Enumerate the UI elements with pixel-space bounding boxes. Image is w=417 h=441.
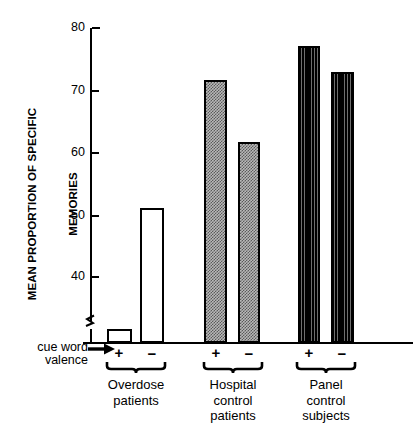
y-tick-70 <box>92 90 99 92</box>
bar-panel-control-positive <box>298 46 320 343</box>
bar-overdose-negative <box>140 208 164 343</box>
bar-hospital-control-negative <box>238 142 261 343</box>
bar-hospital-control-positive <box>204 80 227 343</box>
group-label-overdose-line-2: patients <box>81 393 191 409</box>
valence-sign-overdose-negative: − <box>141 347 163 361</box>
y-tick-label-80: 80 <box>55 21 85 34</box>
bar-chart-figure: MEAN PROPORTION OF SPECIFIC MEMORIES 80 … <box>0 0 417 441</box>
group-label-panel-line-1: Panel <box>271 377 381 393</box>
y-tick-50 <box>92 215 99 217</box>
cue-word-valence-line-2: valence <box>14 354 88 367</box>
y-tick-60 <box>92 152 99 154</box>
y-tick-label-70: 70 <box>55 84 85 97</box>
valence-sign-panel-positive: + <box>298 346 320 360</box>
y-axis-label-line-2: MEMORIES <box>67 59 81 349</box>
group-label-panel-line-3: subjects <box>271 408 381 424</box>
bar-panel-control-negative <box>331 72 354 343</box>
group-label-overdose-line-1: Overdose <box>81 377 191 393</box>
cue-word-valence-label: cue word valence <box>14 341 88 366</box>
y-tick-40 <box>92 276 99 278</box>
valence-sign-hospital-positive: + <box>205 346 227 360</box>
y-tick-label-60: 60 <box>55 146 85 159</box>
y-tick-label-50: 50 <box>55 209 85 222</box>
valence-sign-hospital-negative: − <box>238 347 260 361</box>
valence-sign-panel-negative: − <box>331 347 353 361</box>
group-label-overdose-patients: Overdose patients <box>81 377 191 408</box>
group-brace-hospital-control <box>202 361 264 375</box>
group-brace-panel-control <box>295 361 357 375</box>
y-tick-label-40: 40 <box>55 270 85 283</box>
group-label-panel-control-subjects: Panel control subjects <box>271 377 381 424</box>
cue-word-valence-line-1: cue word <box>14 341 88 354</box>
y-axis-label-line-1: MEAN PROPORTION OF SPECIFIC <box>26 59 40 349</box>
group-label-panel-line-2: control <box>271 393 381 409</box>
group-brace-overdose <box>105 361 167 375</box>
y-tick-80 <box>92 27 100 29</box>
arrow-right-icon <box>88 342 118 356</box>
axis-break-icon <box>84 314 100 328</box>
